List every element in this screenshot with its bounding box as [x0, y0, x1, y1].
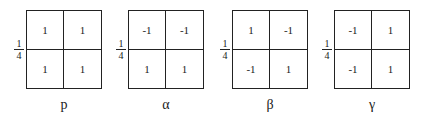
fraction-denominator: 4	[220, 50, 230, 61]
cell-bottom-left: -1	[233, 50, 270, 89]
panel-caption: p	[26, 97, 102, 113]
fraction-numerator: 1	[14, 38, 24, 50]
cell-top-left: 1	[27, 11, 64, 50]
scale-fraction: 1 4	[116, 38, 126, 61]
matrix-grid: -1 1 -1 1	[334, 10, 410, 89]
cell-bottom-right: 1	[64, 50, 101, 89]
cell-bottom-right: 1	[372, 50, 409, 89]
fraction-numerator: 1	[220, 38, 230, 50]
scale-fraction: 1 4	[14, 38, 24, 61]
panel-caption: β	[232, 97, 308, 113]
fraction-numerator: 1	[116, 38, 126, 50]
cell-top-left: -1	[129, 11, 166, 50]
cell-top-right: -1	[270, 11, 307, 50]
fraction-denominator: 4	[322, 50, 332, 61]
cell-top-left: -1	[335, 11, 372, 50]
panel-alpha: 1 4 -1 -1 1 1 α	[102, 0, 206, 124]
cell-bottom-left: 1	[129, 50, 166, 89]
panel-beta: 1 4 1 -1 -1 1 β	[206, 0, 310, 124]
cell-top-right: -1	[166, 11, 203, 50]
matrix-grid: 1 -1 -1 1	[232, 10, 308, 89]
fraction-numerator: 1	[322, 38, 332, 50]
matrix-grid: -1 -1 1 1	[128, 10, 204, 89]
fraction-denominator: 4	[116, 50, 126, 61]
cell-bottom-left: -1	[335, 50, 372, 89]
fraction-denominator: 4	[14, 50, 24, 61]
cell-bottom-right: 1	[270, 50, 307, 89]
panel-p: 1 4 1 1 1 1 p	[0, 0, 104, 124]
cell-bottom-left: 1	[27, 50, 64, 89]
cell-top-right: 1	[64, 11, 101, 50]
cell-top-left: 1	[233, 11, 270, 50]
scale-fraction: 1 4	[322, 38, 332, 61]
cell-top-right: 1	[372, 11, 409, 50]
scale-fraction: 1 4	[220, 38, 230, 61]
panel-gamma: 1 4 -1 1 -1 1 γ	[308, 0, 412, 124]
cell-bottom-right: 1	[166, 50, 203, 89]
matrix-grid: 1 1 1 1	[26, 10, 102, 89]
panel-caption: α	[128, 97, 204, 113]
panel-caption: γ	[334, 97, 410, 113]
